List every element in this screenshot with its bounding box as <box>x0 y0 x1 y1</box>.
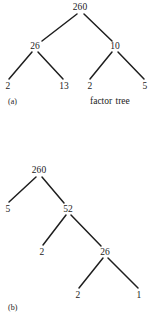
tree-node-5: 5 <box>6 204 11 214</box>
tree-node-5: 5 <box>143 81 148 91</box>
tree-node-10: 10 <box>110 41 120 51</box>
tree-node-260: 260 <box>32 165 47 175</box>
part-label-b: (b) <box>8 303 17 312</box>
edges-group <box>9 14 144 288</box>
tree-node-260: 260 <box>73 2 88 12</box>
tree-edge <box>43 215 66 245</box>
tree-edge <box>79 258 103 288</box>
tree-node-2: 2 <box>88 81 93 91</box>
part-label-a: (a) <box>8 97 17 106</box>
factor-tree-figure: 26026102132526055222621 (a)(b)factor tre… <box>0 0 153 332</box>
tree-edge <box>42 14 77 41</box>
tree-edge <box>42 177 64 203</box>
tree-node-2: 2 <box>6 81 11 91</box>
tree-node-26: 26 <box>100 247 110 257</box>
tree-node-2: 2 <box>76 290 81 300</box>
tree-edge <box>84 14 112 41</box>
tree-node-52: 52 <box>63 204 73 214</box>
tree-edge <box>38 52 63 79</box>
tree-edge <box>71 215 101 246</box>
factor-tree-caption: factor tree <box>90 96 130 106</box>
tree-node-13: 13 <box>59 81 69 91</box>
tree-node-2: 2 <box>40 247 45 257</box>
tree-edge <box>9 52 32 79</box>
tree-edge <box>9 177 36 202</box>
tree-edges-canvas <box>0 0 153 332</box>
tree-node-26: 26 <box>30 41 40 51</box>
tree-node-1: 1 <box>137 290 142 300</box>
tree-edge <box>118 52 144 79</box>
tree-edge <box>90 52 112 79</box>
tree-edge <box>108 258 138 288</box>
